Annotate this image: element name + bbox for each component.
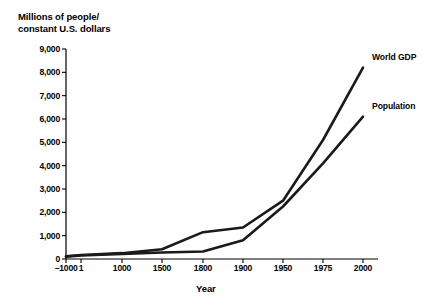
x-tick-label: 1900	[234, 263, 252, 273]
series-lines	[66, 68, 363, 257]
x-tick-label: 1500	[153, 263, 171, 273]
y-tick-label: 1,000	[10, 231, 60, 241]
plot-area	[0, 0, 433, 307]
y-tick-label: 2,000	[10, 207, 60, 217]
x-tick-label: 1800	[194, 263, 212, 273]
x-tick-label: 1	[79, 263, 84, 273]
y-tick-label: 4,000	[10, 161, 60, 171]
x-tick-label: 1950	[274, 263, 292, 273]
y-tick-label: 6,000	[10, 114, 60, 124]
y-tick-label: 3,000	[10, 184, 60, 194]
x-tick-label: 1000	[113, 263, 131, 273]
x-tick-label: 2000	[354, 263, 372, 273]
y-tick-label: 8,000	[10, 67, 60, 77]
y-tick-label: 0	[10, 254, 60, 264]
y-tick-label: 9,000	[10, 44, 60, 54]
x-tick-label: 1975	[314, 263, 332, 273]
series-label-world-gdp: World GDP	[372, 52, 416, 62]
y-tick-label: 5,000	[10, 137, 60, 147]
chart-container: Millions of people/ constant U.S. dollar…	[0, 0, 433, 307]
x-tick-label: −1000	[54, 263, 77, 273]
y-tick-label: 7,000	[10, 91, 60, 101]
series-label-population: Population	[372, 101, 415, 111]
x-axis-title: Year	[196, 283, 216, 295]
